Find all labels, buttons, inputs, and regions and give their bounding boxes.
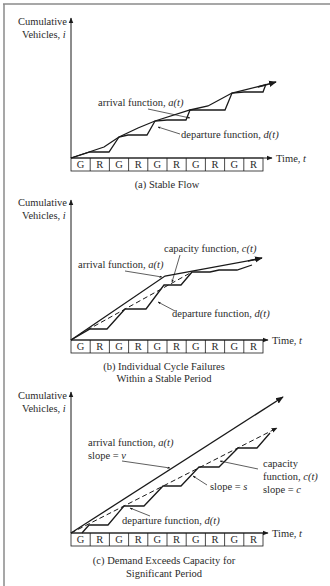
panel-c-caption-line1: (c) Demand Exceeds Capacity for <box>93 555 236 567</box>
capacity-function-label: capacity function, c(t) <box>164 243 257 255</box>
x-axis-label: Time, t <box>272 335 303 346</box>
signal-phase-green: G <box>154 534 162 545</box>
signal-phase-green: G <box>230 341 238 352</box>
arrival-arrowhead <box>258 82 276 87</box>
arrival-function-label: arrival function, a(t) <box>88 437 174 449</box>
capacity-label-line2: function, c(t) <box>263 471 318 483</box>
signal-phase-green: G <box>230 159 238 170</box>
arrival-function-line <box>71 259 258 340</box>
arrival-arrowhead <box>248 258 262 261</box>
arrival-function-line <box>71 397 283 533</box>
signal-phase-green: G <box>192 159 200 170</box>
signal-phase-red: R <box>211 159 218 170</box>
signal-phase-red: R <box>96 534 103 545</box>
capacity-leader <box>172 255 180 282</box>
departure-function-line <box>71 265 252 340</box>
departure-leader <box>158 127 180 134</box>
capacity-label-line1: capacity <box>263 458 299 469</box>
signal-phase-red: R <box>173 534 180 545</box>
signal-phase-green: G <box>154 341 162 352</box>
signal-phase-red: R <box>250 534 257 545</box>
departure-function-line <box>71 84 266 158</box>
panel-c-caption-line2: Significant Period <box>126 568 203 579</box>
y-axis-label-line2: Vehicles, i <box>22 403 66 414</box>
arrival-leader <box>125 271 162 277</box>
signal-phase-red: R <box>173 341 180 352</box>
departure-function-label: departure function, d(t) <box>181 129 279 141</box>
y-axis-label-line1: Cumulative <box>18 390 67 401</box>
departure-function-label: departure function, d(t) <box>172 308 270 320</box>
y-axis-label-line1: Cumulative <box>18 197 67 208</box>
signal-phase-green: G <box>115 159 123 170</box>
signal-phase-green: G <box>77 341 85 352</box>
panel-a-caption: (a) Stable Flow <box>135 179 200 191</box>
signal-phase-red: R <box>135 534 142 545</box>
signal-phase-green: G <box>230 534 238 545</box>
signal-phase-red: R <box>250 341 257 352</box>
signal-phase-green: G <box>154 159 162 170</box>
arrival-function-line <box>71 85 265 158</box>
arrival-function-label: arrival function, a(t) <box>78 259 164 271</box>
signal-phase-red: R <box>250 159 257 170</box>
panel-b: Cumulative Vehicles, i Time, t GRGRGRGRG… <box>18 197 303 384</box>
signal-phase-green: G <box>115 534 123 545</box>
capacity-leader <box>220 461 258 469</box>
signal-phase-green: G <box>192 534 200 545</box>
signal-phase-red: R <box>173 159 180 170</box>
signal-phase-red: R <box>211 534 218 545</box>
arrival-slope-label: slope = v <box>88 450 126 461</box>
y-axis-label-line2: Vehicles, i <box>22 29 66 40</box>
signal-phase-red: R <box>211 341 218 352</box>
panel-b-caption-line1: (b) Individual Cycle Failures <box>103 361 225 373</box>
departure-function-label: departure function, d(t) <box>122 515 220 527</box>
x-axis-label: Time, t <box>276 153 307 164</box>
departure-leader <box>158 302 175 311</box>
signal-phase-red: R <box>135 159 142 170</box>
signal-strip: GRGRGRGRGR <box>71 533 263 546</box>
signal-phase-green: G <box>115 341 123 352</box>
saturation-leader <box>193 476 207 485</box>
signal-phase-red: R <box>96 159 103 170</box>
arrival-leader <box>122 461 170 468</box>
capacity-slope-label: slope = c <box>263 484 301 495</box>
queueing-diagram-figure: Cumulative Vehicles, i Time, t GRGRGRGRG… <box>0 0 330 586</box>
signal-strip: GRGRGRGRGR <box>71 340 263 353</box>
capacity-function-line <box>80 272 192 334</box>
signal-phase-green: G <box>77 534 85 545</box>
arrival-function-label: arrival function, a(t) <box>98 97 184 109</box>
x-axis-label: Time, t <box>272 528 303 539</box>
y-axis-label-line1: Cumulative <box>18 16 67 27</box>
signal-phase-red: R <box>135 341 142 352</box>
saturation-slope-label: slope = s <box>210 481 247 492</box>
signal-phase-green: G <box>192 341 200 352</box>
panel-b-caption-line2: Within a Stable Period <box>117 373 213 384</box>
panel-c: Cumulative Vehicles, i Time, t GRGRGRGRG… <box>18 390 318 579</box>
signal-phase-green: G <box>77 159 85 170</box>
panel-a: Cumulative Vehicles, i Time, t GRGRGRGRG… <box>18 16 307 191</box>
y-axis-label-line2: Vehicles, i <box>22 210 66 221</box>
signal-strip: GRGRGRGRGR <box>71 158 263 171</box>
signal-phase-red: R <box>96 341 103 352</box>
